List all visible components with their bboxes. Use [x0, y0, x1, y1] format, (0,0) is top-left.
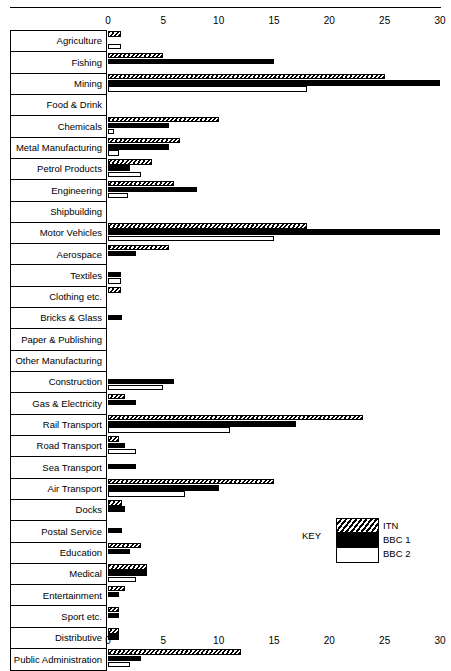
category-label: Air Transport [11, 479, 106, 500]
category-label: Engineering [11, 180, 106, 201]
bar-itn [108, 479, 274, 484]
cropped-title [96, 0, 296, 3]
bar-itn [108, 53, 163, 58]
category-label: Food & Drink [11, 95, 106, 116]
category-label: Other Manufacturing [11, 351, 106, 372]
bar-row [108, 563, 440, 584]
bar-bbc2 [108, 449, 136, 454]
bar-itn [108, 31, 121, 36]
bar-itn [108, 138, 180, 143]
x-axis-top: 051015202530 [108, 14, 440, 27]
bar-bbc1 [108, 144, 169, 149]
category-label: Textiles [11, 265, 106, 286]
legend-title: KEY [302, 530, 321, 541]
legend-swatch-bbc2 [337, 548, 378, 562]
bar-row [108, 648, 440, 669]
category-label: Sea Transport [11, 457, 106, 478]
category-label: Shipbuilding [11, 202, 106, 223]
category-label: Clothing etc. [11, 287, 106, 308]
legend-swatch-bbc1 [337, 533, 378, 547]
bar-row [108, 286, 440, 307]
category-label-column: AgricultureFishingMiningFood & DrinkChem… [10, 30, 107, 671]
category-label: Medical [11, 564, 106, 585]
bar-itn [108, 245, 169, 250]
bar-bbc1 [108, 251, 136, 256]
bar-bbc2 [108, 150, 119, 155]
bar-itn [108, 628, 119, 633]
x-tick-label: 0 [105, 634, 111, 647]
x-tick-label: 30 [434, 14, 445, 27]
bar-bbc1 [108, 59, 274, 64]
category-label: Entertainment [11, 585, 106, 606]
bar-bbc2 [108, 44, 121, 49]
bar-bbc1 [108, 80, 440, 85]
category-label: Public Administration [11, 649, 106, 670]
bar-row [108, 73, 440, 94]
bar-row [108, 584, 440, 605]
category-label: Road Transport [11, 436, 106, 457]
bar-bbc1 [108, 379, 174, 384]
category-label: Docks [11, 500, 106, 521]
category-label: Metal Manufacturing [11, 138, 106, 159]
bar-itn [108, 607, 119, 612]
bar-row [108, 435, 440, 456]
bar-bbc1 [108, 506, 125, 511]
bar-itn [108, 649, 241, 654]
chart-legend: KEY ITN BBC 1 BBC 2 [303, 518, 408, 563]
bar-row [108, 392, 440, 413]
x-tick-label: 5 [161, 634, 167, 647]
bar-bbc1 [108, 485, 219, 490]
x-tick-label: 20 [324, 14, 335, 27]
bar-row [108, 51, 440, 72]
bar-row [108, 414, 440, 435]
category-label: Education [11, 543, 106, 564]
bar-bbc2 [108, 577, 136, 582]
legend-swatch-itn [337, 519, 378, 533]
category-label: Rail Transport [11, 415, 106, 436]
bar-row [108, 115, 440, 136]
bar-row [108, 179, 440, 200]
bar-itn [108, 415, 363, 420]
category-label: Sport etc. [11, 606, 106, 627]
bar-row [108, 371, 440, 392]
x-tick-label: 20 [324, 634, 335, 647]
bar-row [108, 605, 440, 626]
bar-bbc1 [108, 613, 119, 618]
category-label: Aerospace [11, 244, 106, 265]
bar-itn [108, 394, 125, 399]
bar-row [108, 137, 440, 158]
bar-itn [108, 223, 307, 228]
bar-row [108, 222, 440, 243]
category-label: Agriculture [11, 31, 106, 52]
bar-bbc1 [108, 421, 296, 426]
bar-bbc2 [108, 662, 130, 667]
bar-bbc2 [108, 86, 307, 91]
bar-row [108, 94, 440, 115]
x-tick-label: 25 [379, 14, 390, 27]
category-label: Gas & Electricity [11, 393, 106, 414]
bar-bbc1 [108, 570, 147, 575]
bar-itn [108, 159, 152, 164]
category-label: Distributive [11, 628, 106, 649]
bar-bbc2 [108, 385, 163, 390]
category-label: Bricks & Glass [11, 308, 106, 329]
bar-row [108, 478, 440, 499]
category-label: Chemicals [11, 116, 106, 137]
category-label: Motor Vehicles [11, 223, 106, 244]
x-tick-label: 15 [268, 14, 279, 27]
bar-bbc1 [108, 165, 130, 170]
bar-bbc2 [108, 236, 274, 241]
bar-row [108, 328, 440, 349]
x-tick-label: 30 [434, 634, 445, 647]
legend-label-bbc1: BBC 1 [383, 534, 410, 545]
bar-itn [108, 436, 119, 441]
bar-bbc1 [108, 315, 122, 320]
x-tick-label: 10 [213, 14, 224, 27]
bar-bbc1 [108, 272, 121, 277]
bar-bbc2 [108, 129, 114, 134]
bar-itn [108, 287, 121, 292]
category-label: Postal Service [11, 521, 106, 542]
bar-itn [108, 564, 147, 569]
bar-row [108, 201, 440, 222]
x-tick-label: 15 [268, 634, 279, 647]
